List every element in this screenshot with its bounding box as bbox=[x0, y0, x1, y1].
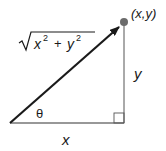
angle-label: θ bbox=[36, 107, 43, 120]
right-triangle-diagram: (x,y) x 2 + y 2 y θ x bbox=[0, 0, 166, 151]
horizontal-side-label: x bbox=[62, 132, 70, 147]
hyp-x: x bbox=[34, 36, 41, 52]
hyp-y: y bbox=[67, 36, 74, 52]
hyp-plus: + bbox=[54, 36, 62, 51]
vertical-side-label: y bbox=[134, 66, 142, 81]
point-label: (x,y) bbox=[131, 7, 156, 20]
hyp-x-exp: 2 bbox=[43, 33, 48, 43]
point-dot bbox=[120, 18, 128, 26]
right-angle-marker bbox=[114, 113, 124, 123]
hyp-y-exp: 2 bbox=[76, 33, 81, 43]
